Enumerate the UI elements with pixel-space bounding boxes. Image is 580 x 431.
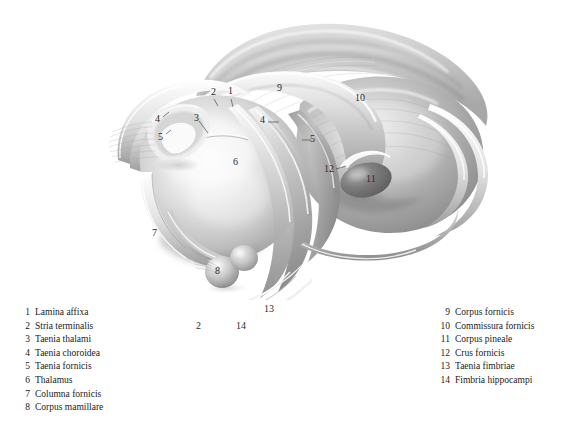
legend-number: 2 xyxy=(14,320,30,334)
callout-5-left: 5 xyxy=(158,132,163,142)
legend-label: Corpus fornicis xyxy=(455,306,514,320)
callout-5-right: 5 xyxy=(310,134,315,144)
fornix-thalamus-illustration xyxy=(0,0,580,300)
legend-label: Corpus mamillare xyxy=(35,401,103,415)
callout-10: 10 xyxy=(355,93,365,103)
callout-6: 6 xyxy=(233,157,238,167)
legend-number: 5 xyxy=(14,360,30,374)
legend-number: 11 xyxy=(434,333,450,347)
legend-number: 6 xyxy=(14,374,30,388)
legend-item-11: 11 Corpus pineale xyxy=(434,333,534,347)
legend-label: Crus fornicis xyxy=(455,347,504,361)
anatomical-figure-plate: 1 2 3 4 5 4 5 6 7 8 9 10 11 12 13 14 2 1… xyxy=(0,0,580,431)
legend-item-2: 2 Stria terminalis xyxy=(14,320,103,334)
legend-number: 1 xyxy=(14,306,30,320)
legend-label: Commissura fornicis xyxy=(455,320,534,334)
legend-label: Taenia choroidea xyxy=(35,347,100,361)
legend: 1 Lamina affixa 2 Stria terminalis 3 Tae… xyxy=(0,300,580,431)
legend-item-12: 12 Crus fornicis xyxy=(434,347,534,361)
legend-label: Taenia thalami xyxy=(35,333,91,347)
legend-number: 14 xyxy=(434,374,450,388)
legend-item-14: 14 Fimbria hippocampi xyxy=(434,374,534,388)
callout-7: 7 xyxy=(152,228,157,238)
legend-number: 13 xyxy=(434,360,450,374)
legend-label: Lamina affixa xyxy=(35,306,88,320)
callout-4-right: 4 xyxy=(260,115,265,125)
legend-number: 12 xyxy=(434,347,450,361)
legend-number: 10 xyxy=(434,320,450,334)
legend-number: 3 xyxy=(14,333,30,347)
legend-label: Taenia fornicis xyxy=(35,360,92,374)
legend-label: Thalamus xyxy=(35,374,72,388)
callout-4-left: 4 xyxy=(155,114,160,124)
legend-column-left: 1 Lamina affixa 2 Stria terminalis 3 Tae… xyxy=(14,306,103,415)
legend-item-7: 7 Columna fornicis xyxy=(14,388,103,402)
callout-9: 9 xyxy=(277,83,282,93)
legend-number: 4 xyxy=(14,347,30,361)
legend-number: 9 xyxy=(434,306,450,320)
legend-item-8: 8 Corpus mamillare xyxy=(14,401,103,415)
callout-1: 1 xyxy=(228,86,233,96)
legend-label: Fimbria hippocampi xyxy=(455,374,532,388)
callout-8: 8 xyxy=(215,266,220,276)
legend-number: 7 xyxy=(14,388,30,402)
callout-11: 11 xyxy=(366,174,376,184)
legend-number: 8 xyxy=(14,401,30,415)
legend-label: Stria terminalis xyxy=(35,320,93,334)
legend-item-13: 13 Taenia fimbriae xyxy=(434,360,534,374)
legend-item-1: 1 Lamina affixa xyxy=(14,306,103,320)
callout-12: 12 xyxy=(324,164,334,174)
legend-item-6: 6 Thalamus xyxy=(14,374,103,388)
legend-item-4: 4 Taenia choroidea xyxy=(14,347,103,361)
legend-label: Taenia fimbriae xyxy=(455,360,515,374)
legend-label: Columna fornicis xyxy=(35,388,101,402)
legend-label: Corpus pineale xyxy=(455,333,512,347)
legend-column-right: 9 Corpus fornicis 10 Commissura fornicis… xyxy=(434,306,534,388)
legend-item-3: 3 Taenia thalami xyxy=(14,333,103,347)
legend-item-9: 9 Corpus fornicis xyxy=(434,306,534,320)
legend-item-10: 10 Commissura fornicis xyxy=(434,320,534,334)
callout-2: 2 xyxy=(211,87,216,97)
callout-3: 3 xyxy=(194,113,199,123)
legend-item-5: 5 Taenia fornicis xyxy=(14,360,103,374)
